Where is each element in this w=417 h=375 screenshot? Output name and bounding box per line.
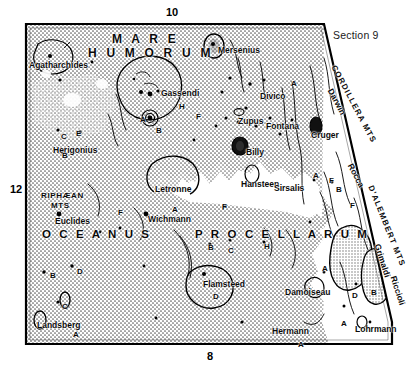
crater-euclides-dot xyxy=(57,212,62,217)
crater-billy-outline xyxy=(232,137,248,155)
map-body xyxy=(24,22,394,346)
map-plate xyxy=(24,22,394,346)
crater-wichmann-dot xyxy=(144,212,149,217)
procellarum-stipple xyxy=(26,202,324,344)
coordinate-bottom: 8 xyxy=(207,350,213,362)
coordinate-left: 12 xyxy=(10,183,22,195)
coordinate-top: 10 xyxy=(166,6,178,18)
lunar-map-page: 10 12 8 Section 9 xyxy=(0,0,417,375)
